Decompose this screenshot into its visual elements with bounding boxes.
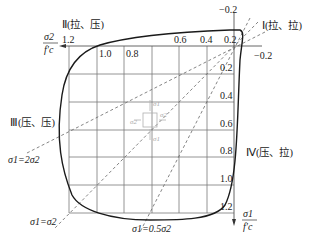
x-tick-0-8: 0.8 xyxy=(126,48,139,59)
x-tick-neg-0-2: −0.2 xyxy=(254,50,272,61)
x-tick-1-2: 1.2 xyxy=(62,34,75,45)
label-sigma1-2sigma2: σ1=2σ2 xyxy=(8,154,40,165)
y-tick-1-0: 1.0 xyxy=(220,173,233,184)
y-tick-neg-0-2: −0.2 xyxy=(219,4,237,15)
y-axis-label: σ1 f′c xyxy=(242,208,257,232)
element-sigma1-top: σ1 xyxy=(153,100,160,108)
y-tick-0-2: 0.2 xyxy=(220,62,233,73)
element-sigma2-left: σ2 xyxy=(130,118,137,126)
x-tick-0-6: 0.6 xyxy=(174,34,187,45)
stress-element xyxy=(134,100,166,140)
x-axis-label: σ2 f′c xyxy=(43,31,58,55)
quadrant-III-label: Ⅲ(压、压) xyxy=(10,117,55,129)
failure-envelope-curve xyxy=(59,30,243,220)
quadrant-IV-label: Ⅳ(压、拉) xyxy=(246,146,293,159)
quadrant-II-label: Ⅱ(拉、压) xyxy=(62,18,104,31)
element-sigma1-bottom: σ1 xyxy=(153,135,160,143)
y-tick-0-6: 0.6 xyxy=(220,118,233,129)
y-tick-0-4: 0.4 xyxy=(220,90,233,101)
y-tick-0-8: 0.8 xyxy=(220,145,233,156)
quadrant-I-label: Ⅰ(拉、拉) xyxy=(262,19,302,32)
svg-text:f′c: f′c xyxy=(243,221,253,232)
label-sigma1-sigma2: σ1=σ2 xyxy=(30,216,57,227)
element-sigma2-right: σ2 xyxy=(160,111,167,119)
svg-text:σ2: σ2 xyxy=(44,31,54,42)
x-tick-0-2: 0.2 xyxy=(224,34,237,45)
svg-text:σ1: σ1 xyxy=(243,208,253,219)
grid xyxy=(69,46,234,213)
y-tick-1-2: 1.2 xyxy=(220,201,233,212)
svg-text:f′c: f′c xyxy=(44,44,54,55)
y-arrow-icon xyxy=(232,219,236,226)
x-tick-0-4: 0.4 xyxy=(200,34,213,45)
x-tick-1-0: 1.0 xyxy=(99,48,112,59)
label-sigma1-half-sigma2: σ1=0.5σ2 xyxy=(132,223,171,234)
failure-envelope-diagram: σ1 σ1 σ2 σ2 1.2 1.0 0.8 0.6 0.4 0.2 −0.2… xyxy=(0,0,315,242)
